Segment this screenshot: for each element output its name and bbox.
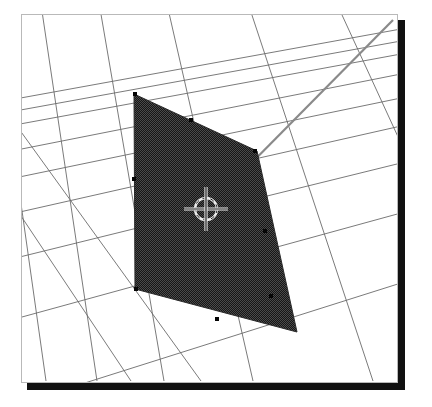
application-window: 3D Viewport Perspective Solid Plane: [0, 0, 432, 407]
vertex-marker[interactable]: [263, 229, 267, 233]
3d-viewport-panel[interactable]: 3D Viewport Perspective Solid Plane: [21, 14, 398, 383]
vertex-marker[interactable]: [133, 92, 137, 96]
vertex-marker[interactable]: [132, 177, 136, 181]
vertex-marker[interactable]: [189, 118, 193, 122]
vertex-marker[interactable]: [215, 317, 219, 321]
viewport-canvas[interactable]: [22, 15, 397, 382]
vertex-marker[interactable]: [269, 294, 273, 298]
vertex-marker[interactable]: [134, 287, 138, 291]
vertex-marker[interactable]: [253, 149, 257, 153]
